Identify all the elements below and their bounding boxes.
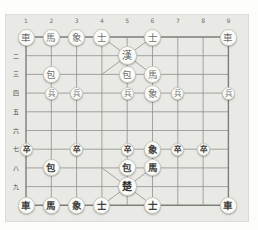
piece-cho-pawn[interactable]: 卒: [20, 143, 33, 156]
file-label: 2: [45, 18, 57, 24]
rank-label: 四: [10, 90, 22, 96]
piece-han-pawn[interactable]: 兵: [121, 87, 134, 100]
janggi-board-screen: 123456789二三四五六七八九 車馬象士士車漢包包馬兵兵兵象兵兵卒卒卒象卒卒…: [0, 0, 258, 230]
rank-label: 九: [10, 184, 22, 190]
rank-label: 八: [10, 165, 22, 171]
piece-cho-pawn[interactable]: 卒: [171, 143, 184, 156]
piece-han-guard[interactable]: 士: [144, 29, 161, 46]
rank-label: 三: [10, 71, 22, 77]
piece-han-pawn[interactable]: 兵: [70, 87, 83, 100]
file-label: 9: [222, 18, 234, 24]
piece-han-chariot[interactable]: 車: [18, 29, 35, 46]
piece-cho-king[interactable]: 楚: [118, 177, 137, 196]
file-label: 7: [172, 18, 184, 24]
file-label: 1: [20, 18, 32, 24]
piece-cho-chariot[interactable]: 車: [220, 197, 237, 214]
file-label: 8: [197, 18, 209, 24]
rank-label: 六: [10, 128, 22, 134]
piece-han-cannon[interactable]: 包: [43, 66, 60, 83]
piece-cho-horse[interactable]: 馬: [43, 197, 60, 214]
rank-label: 五: [10, 109, 22, 115]
piece-han-cannon[interactable]: 包: [119, 66, 136, 83]
piece-han-elephant[interactable]: 象: [68, 29, 85, 46]
rank-label: 二: [10, 53, 22, 59]
piece-han-horse[interactable]: 馬: [144, 66, 161, 83]
piece-han-guard[interactable]: 士: [93, 29, 110, 46]
file-label: 5: [121, 18, 133, 24]
piece-cho-elephant[interactable]: 象: [144, 141, 161, 158]
piece-cho-pawn[interactable]: 卒: [197, 143, 210, 156]
piece-han-pawn[interactable]: 兵: [222, 87, 235, 100]
piece-han-elephant[interactable]: 象: [144, 85, 161, 102]
piece-cho-pawn[interactable]: 卒: [121, 143, 134, 156]
piece-han-pawn[interactable]: 兵: [171, 87, 184, 100]
piece-cho-pawn[interactable]: 卒: [70, 143, 83, 156]
piece-cho-cannon[interactable]: 包: [119, 159, 136, 176]
piece-han-chariot[interactable]: 車: [220, 29, 237, 46]
piece-cho-guard[interactable]: 士: [144, 197, 161, 214]
piece-cho-chariot[interactable]: 車: [18, 197, 35, 214]
piece-han-horse[interactable]: 馬: [43, 29, 60, 46]
file-label: 4: [96, 18, 108, 24]
file-label: 6: [147, 18, 159, 24]
piece-cho-elephant[interactable]: 象: [68, 197, 85, 214]
piece-han-king[interactable]: 漢: [118, 46, 137, 65]
file-label: 3: [71, 18, 83, 24]
piece-han-pawn[interactable]: 兵: [45, 87, 58, 100]
